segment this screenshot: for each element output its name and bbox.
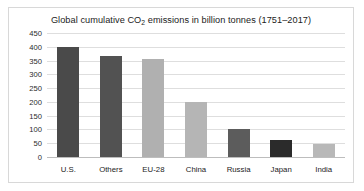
x-axis-label: Others xyxy=(99,165,122,174)
x-axis-label: Japan xyxy=(271,165,292,174)
chart-title-after: emissions in billion tonnes (1751–2017) xyxy=(145,15,311,25)
x-axis-label: U.S. xyxy=(61,165,76,174)
y-axis-tick-label: 150 xyxy=(29,111,42,120)
y-axis-tick-label: 100 xyxy=(29,125,42,134)
y-axis-tick-label: 50 xyxy=(34,139,42,148)
x-axis-label: India xyxy=(315,165,332,174)
gridline xyxy=(47,157,345,158)
x-axis-label: China xyxy=(186,165,206,174)
bar xyxy=(100,56,122,157)
y-axis-tick-label: 450 xyxy=(29,29,42,38)
y-axis-tick-label: 250 xyxy=(29,84,42,93)
y-axis-tick-label: 0 xyxy=(38,153,42,162)
x-axis-label: EU-28 xyxy=(142,165,164,174)
y-axis-tick-label: 300 xyxy=(29,70,42,79)
bar xyxy=(228,129,250,157)
x-axis-label: Russia xyxy=(227,165,251,174)
plot-area: 450400350300250200150100500 U.S.OthersEU… xyxy=(47,33,345,157)
bar xyxy=(142,59,164,157)
bar-series xyxy=(47,33,345,157)
y-axis-tick-label: 350 xyxy=(29,56,42,65)
chart-title-subscript: 2 xyxy=(141,19,145,26)
bar xyxy=(185,102,207,157)
bar xyxy=(57,47,79,157)
chart-title-before: Global cumulative CO xyxy=(51,15,141,25)
bar xyxy=(313,144,335,157)
y-axis-tick-label: 200 xyxy=(29,97,42,106)
chart-title: Global cumulative CO2 emissions in billi… xyxy=(9,15,353,25)
chart-container: Global cumulative CO2 emissions in billi… xyxy=(8,7,354,183)
y-axis-tick-label: 400 xyxy=(29,42,42,51)
bar xyxy=(270,140,292,157)
